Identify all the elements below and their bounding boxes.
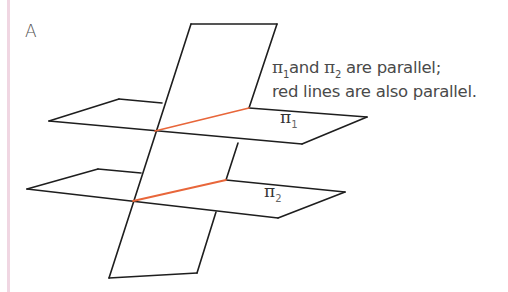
plane-label-pi-1: π1 <box>280 107 298 127</box>
caption-text: and <box>289 58 324 77</box>
intersection-line-1 <box>155 108 249 131</box>
subscript: 1 <box>291 119 297 130</box>
caption-line-2: red lines are also parallel. <box>272 81 477 103</box>
pi-symbol: π <box>324 57 335 77</box>
pi-symbol: π <box>264 181 275 201</box>
pi-symbol: π <box>272 57 283 77</box>
caption-line-1: π1and π2 are parallel; <box>272 56 477 81</box>
caption-text: are parallel; <box>341 58 441 77</box>
plane-pi-1 <box>49 99 367 144</box>
pi-symbol: π <box>280 107 291 127</box>
transversal-plane <box>109 24 277 278</box>
subscript: 2 <box>335 69 341 80</box>
intersection-line-2 <box>133 180 226 201</box>
caption: π1and π2 are parallel; red lines are als… <box>272 56 477 103</box>
subscript: 1 <box>283 69 289 80</box>
subscript: 2 <box>275 193 281 204</box>
parallel-planes-diagram <box>0 0 508 292</box>
plane-pi-2 <box>27 169 345 218</box>
plane-label-pi-2: π2 <box>264 181 282 201</box>
